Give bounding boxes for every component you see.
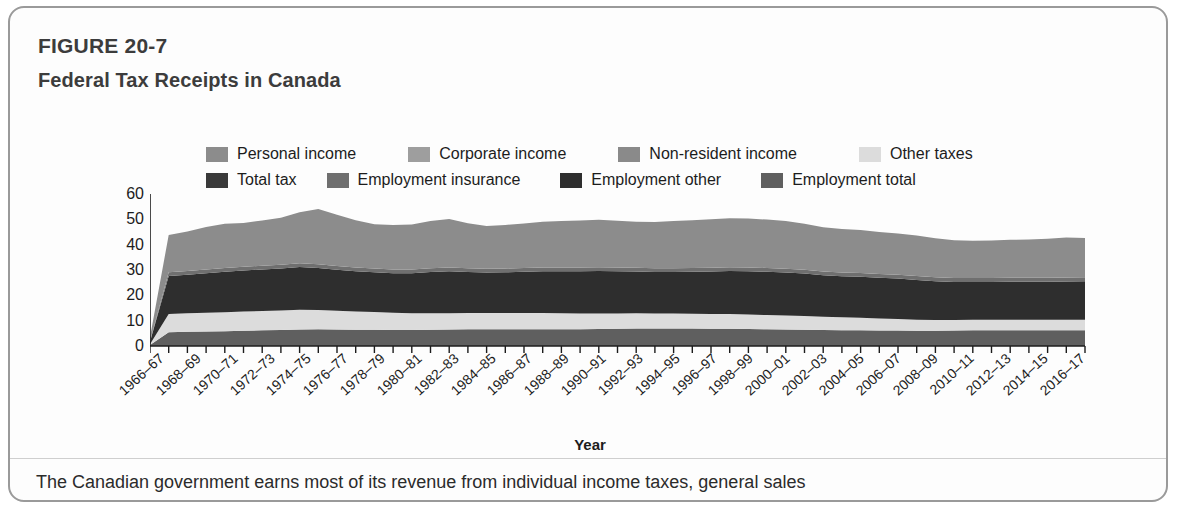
y-axis-tick-label: 30 bbox=[110, 261, 144, 279]
chart-plot-area: 0102030405060 1966–671968–691970–711972–… bbox=[110, 194, 1110, 434]
figure-caption: The Canadian government earns most of it… bbox=[36, 470, 1146, 494]
legend-label: Personal income bbox=[237, 145, 356, 163]
legend-item[interactable]: Personal income bbox=[206, 145, 356, 163]
legend-label: Other taxes bbox=[890, 145, 973, 163]
legend-label: Non-resident income bbox=[649, 145, 797, 163]
caption-divider bbox=[10, 458, 1166, 459]
chart-legend: Personal incomeCorporate incomeNon-resid… bbox=[206, 141, 1106, 193]
legend-swatch-icon bbox=[327, 173, 349, 188]
stacked-area-plot bbox=[150, 194, 1085, 346]
y-axis-tick-label: 20 bbox=[110, 286, 144, 304]
legend-swatch-icon bbox=[206, 173, 228, 188]
figure-number: FIGURE 20-7 bbox=[38, 34, 167, 58]
y-axis-labels: 0102030405060 bbox=[110, 194, 144, 346]
legend-item[interactable]: Employment other bbox=[560, 171, 721, 189]
legend-swatch-icon bbox=[761, 173, 783, 188]
legend-item[interactable]: Corporate income bbox=[408, 145, 566, 163]
legend-swatch-icon bbox=[560, 173, 582, 188]
legend-item[interactable]: Non-resident income bbox=[618, 145, 797, 163]
legend-item[interactable]: Other taxes bbox=[859, 145, 973, 163]
legend-swatch-icon bbox=[859, 147, 881, 162]
y-axis-tick-label: 40 bbox=[110, 236, 144, 254]
legend-label: Corporate income bbox=[439, 145, 566, 163]
y-axis-tick-label: 50 bbox=[110, 210, 144, 228]
legend-label: Employment total bbox=[792, 171, 916, 189]
y-axis-tick-label: 10 bbox=[110, 312, 144, 330]
y-axis-tick-label: 60 bbox=[110, 185, 144, 203]
x-axis-title: Year bbox=[10, 436, 1170, 453]
legend-swatch-icon bbox=[408, 147, 430, 162]
legend-item[interactable]: Employment total bbox=[761, 171, 916, 189]
figure-container: FIGURE 20-7 Federal Tax Receipts in Cana… bbox=[8, 6, 1168, 502]
legend-label: Employment insurance bbox=[358, 171, 521, 189]
legend-item[interactable]: Total tax bbox=[206, 171, 297, 189]
x-axis-labels: 1966–671968–691970–711972–731974–751976–… bbox=[150, 350, 1085, 430]
legend-swatch-icon bbox=[206, 147, 228, 162]
figure-title: Federal Tax Receipts in Canada bbox=[38, 69, 341, 92]
legend-row: Total taxEmployment insuranceEmployment … bbox=[206, 167, 1106, 193]
area-series-employment-total bbox=[150, 329, 1085, 346]
legend-label: Employment other bbox=[591, 171, 721, 189]
legend-item[interactable]: Employment insurance bbox=[327, 171, 521, 189]
y-axis-tick-label: 0 bbox=[110, 337, 144, 355]
legend-row: Personal incomeCorporate incomeNon-resid… bbox=[206, 141, 1106, 167]
legend-label: Total tax bbox=[237, 171, 297, 189]
legend-swatch-icon bbox=[618, 147, 640, 162]
area-chart-svg bbox=[150, 194, 1087, 372]
